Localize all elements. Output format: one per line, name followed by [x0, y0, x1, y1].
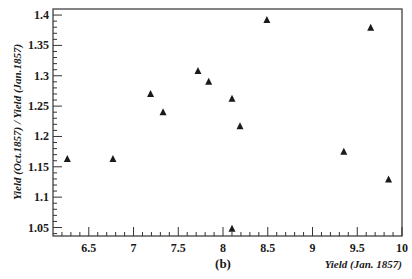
triangle-marker — [228, 95, 235, 102]
x-tick-label: 7 — [131, 241, 137, 255]
y-axis-ticks: 1.051.11.151.21.251.31.351.4 — [28, 8, 62, 234]
triangle-marker — [147, 90, 154, 97]
y-tick-label: 1.2 — [34, 129, 49, 143]
y-tick-label: 1.25 — [28, 99, 49, 113]
x-tick-label: 9.5 — [350, 241, 365, 255]
triangle-marker — [367, 24, 374, 31]
x-tick-label: 8.5 — [260, 241, 275, 255]
x-tick-label: 7.5 — [171, 241, 186, 255]
triangle-marker — [160, 108, 167, 115]
y-axis-label: Yield (Oct.1857) / Yield (Jan.1857) — [11, 44, 24, 200]
scatter-chart: 6.577.588.599.510 1.051.11.151.21.251.31… — [0, 0, 412, 279]
triangle-marker — [237, 122, 244, 129]
y-tick-label: 1.3 — [34, 69, 49, 83]
panel-label: (b) — [215, 256, 231, 271]
y-tick-label: 1.1 — [34, 190, 49, 204]
triangle-marker — [228, 225, 235, 232]
y-tick-label: 1.4 — [34, 8, 49, 22]
triangle-marker — [64, 155, 71, 162]
x-axis-label: Yield (Jan. 1857) — [325, 258, 402, 271]
triangle-marker — [340, 148, 347, 155]
x-tick-label: 9 — [310, 241, 316, 255]
triangle-marker — [205, 78, 212, 85]
x-tick-label: 8 — [220, 241, 226, 255]
plot-axes — [53, 9, 402, 236]
y-tick-label: 1.05 — [28, 221, 49, 235]
triangle-marker — [263, 16, 270, 23]
plot-frame — [53, 9, 402, 236]
triangle-marker — [109, 155, 116, 162]
triangle-marker — [385, 176, 392, 183]
y-tick-label: 1.35 — [28, 38, 49, 52]
triangle-marker — [194, 67, 201, 74]
x-tick-label: 10 — [396, 241, 408, 255]
data-points — [64, 16, 392, 232]
y-tick-label: 1.15 — [28, 160, 49, 174]
x-tick-label: 6.5 — [81, 241, 96, 255]
